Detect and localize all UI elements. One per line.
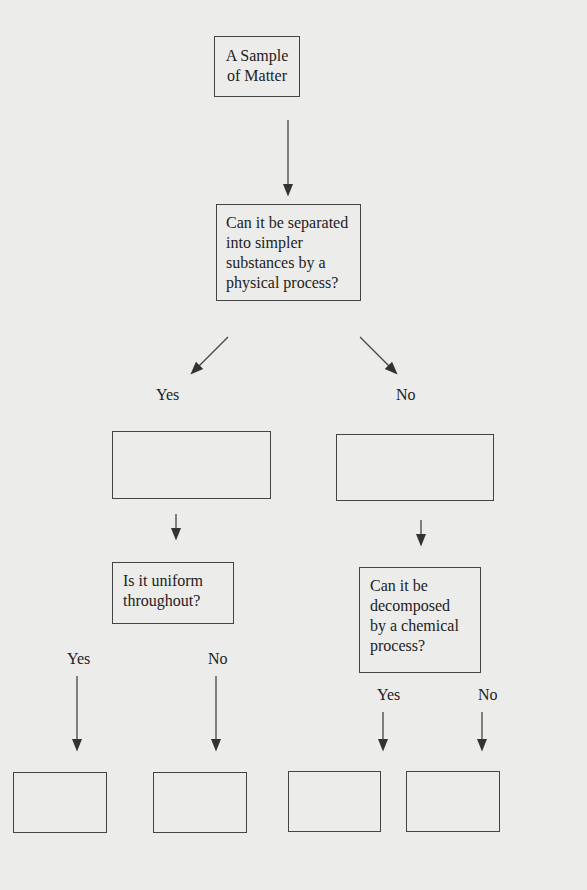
q3-line: decomposed [370, 596, 480, 616]
answer-box-homogeneous[interactable] [13, 772, 107, 833]
q1-line: Can it be separated [226, 213, 360, 233]
answer-box-element[interactable] [406, 771, 500, 832]
q1-line: substances by a [226, 253, 360, 273]
question-uniform-throughout: Is it uniform throughout? [112, 562, 234, 624]
q2-line: throughout? [123, 591, 233, 611]
q3-line: by a chemical [370, 616, 480, 636]
connector-arrows [0, 0, 587, 890]
q1-yes-label: Yes [156, 386, 179, 404]
q3-yes-label: Yes [377, 686, 400, 704]
answer-box-mixture[interactable] [112, 431, 271, 499]
answer-box-heterogeneous[interactable] [153, 772, 247, 833]
q3-no-label: No [478, 686, 498, 704]
q1-line: physical process? [226, 273, 360, 293]
answer-box-compound[interactable] [288, 771, 381, 832]
q3-line: Can it be [370, 576, 480, 596]
root-line-1: A Sample [215, 46, 299, 66]
root-line-2: of Matter [215, 66, 299, 86]
root-node-sample-of-matter: A Sample of Matter [214, 36, 300, 97]
q2-no-label: No [208, 650, 228, 668]
q2-yes-label: Yes [67, 650, 90, 668]
answer-box-pure-substance[interactable] [336, 434, 494, 501]
question-physical-separation: Can it be separated into simpler substan… [216, 204, 361, 301]
q1-line: into simpler [226, 233, 360, 253]
question-chemical-decomposition: Can it be decomposed by a chemical proce… [359, 567, 481, 673]
q2-line: Is it uniform [123, 571, 233, 591]
q1-no-label: No [396, 386, 416, 404]
q3-line: process? [370, 636, 480, 656]
